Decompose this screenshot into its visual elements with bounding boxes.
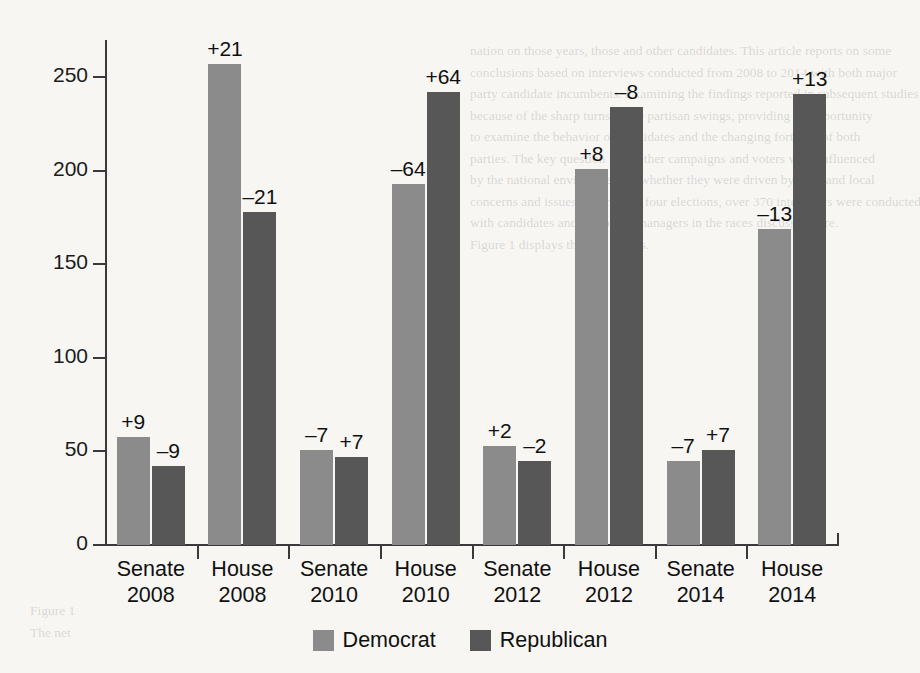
bar-value-label: –13 (752, 202, 797, 226)
bar-republican[interactable] (610, 107, 643, 545)
x-axis-category-label: Senate2014 (655, 556, 747, 608)
legend-item-democrat[interactable]: Democrat (313, 628, 436, 653)
bar-republican[interactable] (793, 94, 826, 545)
figure-page: nation on those years, those and other c… (0, 0, 920, 673)
legend-swatch-icon (470, 630, 491, 651)
bar-democrat[interactable] (300, 450, 333, 545)
category-year: 2010 (288, 582, 380, 608)
bar-republican[interactable] (518, 461, 551, 545)
bar-value-label: +9 (111, 410, 156, 434)
bar-value-label: –8 (604, 80, 649, 104)
x-axis-category-label: House2008 (197, 556, 289, 608)
bar-republican[interactable] (427, 92, 460, 545)
y-axis-tick-value: 0 (76, 531, 88, 555)
chart-legend: Democrat Republican (0, 628, 920, 653)
bar-republican[interactable] (335, 457, 368, 545)
bar-democrat[interactable] (758, 229, 791, 545)
category-chamber: Senate (472, 556, 564, 582)
category-chamber: Senate (655, 556, 747, 582)
legend-label: Democrat (343, 628, 436, 653)
x-axis-category-label: House2012 (563, 556, 655, 608)
bar-democrat[interactable] (575, 169, 608, 545)
category-year: 2010 (380, 582, 472, 608)
bar-value-label: –21 (237, 185, 282, 209)
bar-democrat[interactable] (208, 64, 241, 545)
category-year: 2014 (746, 582, 838, 608)
bar-republican[interactable] (702, 450, 735, 545)
bar-value-label: –9 (146, 439, 191, 463)
x-axis-category-label: Senate2008 (105, 556, 197, 608)
bar-value-label: +7 (696, 423, 741, 447)
legend-item-republican[interactable]: Republican (470, 628, 608, 653)
category-chamber: Senate (288, 556, 380, 582)
category-chamber: House (563, 556, 655, 582)
x-axis-category-label: Senate2012 (472, 556, 564, 608)
category-chamber: House (746, 556, 838, 582)
grouped-bar-chart: 050100150200250 Senate2008House2008Senat… (0, 0, 920, 673)
bar-value-label: –64 (386, 157, 431, 181)
category-chamber: House (380, 556, 472, 582)
category-chamber: Senate (105, 556, 197, 582)
x-axis-category-label: House2010 (380, 556, 472, 608)
bar-value-label: –2 (512, 434, 557, 458)
category-year: 2012 (563, 582, 655, 608)
x-axis-category-label: House2014 (746, 556, 838, 608)
bar-democrat[interactable] (483, 446, 516, 545)
y-axis-tick-value: 200 (53, 157, 88, 181)
y-axis-tick-value: 100 (53, 344, 88, 368)
bar-democrat[interactable] (392, 184, 425, 545)
bar-value-label: +13 (787, 67, 832, 91)
y-axis-tick-value: 50 (65, 437, 88, 461)
bar-value-label: +8 (569, 142, 614, 166)
category-year: 2012 (472, 582, 564, 608)
plot-area (105, 40, 838, 545)
y-axis-tick-value: 150 (53, 250, 88, 274)
bar-value-label: +64 (421, 65, 466, 89)
legend-label: Republican (500, 628, 608, 653)
bar-value-label: +7 (329, 430, 374, 454)
legend-swatch-icon (313, 630, 334, 651)
y-axis-tick-value: 250 (53, 63, 88, 87)
category-year: 2014 (655, 582, 747, 608)
bar-democrat[interactable] (667, 461, 700, 545)
category-year: 2008 (197, 582, 289, 608)
bar-value-label: +21 (202, 37, 247, 61)
category-chamber: House (197, 556, 289, 582)
bar-republican[interactable] (243, 212, 276, 545)
bar-republican[interactable] (152, 466, 185, 545)
category-year: 2008 (105, 582, 197, 608)
x-axis-category-label: Senate2010 (288, 556, 380, 608)
